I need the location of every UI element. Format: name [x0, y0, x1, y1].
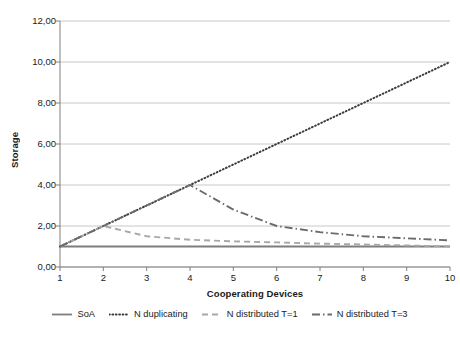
x-tick-label: 7	[305, 272, 335, 283]
x-tick-label: 10	[435, 272, 460, 283]
x-tick-label: 6	[262, 272, 292, 283]
x-tick-label: 2	[88, 272, 118, 283]
legend-label: N duplicating	[134, 309, 188, 319]
chart-legend: SoAN duplicatingN distributed T=1N distr…	[0, 309, 460, 319]
legend-item[interactable]: N distributed T=1	[202, 309, 298, 319]
x-tick-label: 3	[132, 272, 162, 283]
x-axis-tick-marks	[60, 267, 450, 271]
legend-line-swatch	[109, 310, 129, 319]
x-tick-label: 1	[45, 272, 75, 283]
x-tick-label: 9	[392, 272, 422, 283]
legend-line-swatch	[52, 310, 72, 319]
legend-item[interactable]: SoA	[52, 309, 95, 319]
x-axis-title: Cooperating Devices	[60, 288, 450, 299]
data-series-group	[60, 62, 450, 247]
x-tick-label: 5	[218, 272, 248, 283]
legend-item[interactable]: N distributed T=3	[312, 309, 408, 319]
storage-line-chart: Storage 0,002,004,006,008,0010,0012,00 1…	[0, 0, 460, 340]
legend-label: N distributed T=1	[227, 309, 298, 319]
x-axis-tick-labels: 12345678910	[0, 272, 460, 286]
x-tick-label: 4	[175, 272, 205, 283]
series-line	[60, 185, 450, 247]
legend-line-swatch	[202, 310, 222, 319]
x-tick-label: 8	[348, 272, 378, 283]
legend-label: N distributed T=3	[337, 309, 408, 319]
legend-label: SoA	[77, 309, 95, 319]
legend-item[interactable]: N duplicating	[109, 309, 188, 319]
series-line	[60, 226, 450, 247]
legend-line-swatch	[312, 310, 332, 319]
